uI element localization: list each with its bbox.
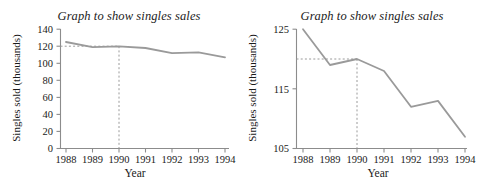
y-tick-label: 20 (43, 126, 54, 137)
y-tick-label: 40 (43, 109, 54, 120)
y-tick-label: 140 (37, 24, 53, 35)
y-tick-label: 115 (274, 84, 289, 95)
x-tick-label: 1990 (347, 154, 368, 165)
y-tick-label: 60 (43, 92, 54, 103)
y-tick-label: 0 (48, 143, 53, 154)
x-tick-label: 1991 (374, 154, 395, 165)
x-tick-marks-left (66, 149, 225, 153)
y-tick-label: 125 (273, 24, 289, 35)
plot-area-left: 0 20 40 60 80 100 120 140 198 (0, 0, 240, 187)
y-tick-marks-right (293, 29, 297, 148)
x-tick-label: 1989 (320, 154, 341, 165)
data-series-line-right (303, 29, 465, 137)
figure-pair: Graph to show singles sales Singles sold… (0, 0, 480, 187)
plot-area-right: 105 115 125 1988 1989 1990 1991 1992 (240, 0, 480, 187)
x-tick-label: 1992 (162, 154, 183, 165)
y-tick-label: 80 (43, 75, 54, 86)
data-series-line-left (66, 42, 225, 57)
y-tick-label: 105 (273, 143, 289, 154)
y-tick-label: 100 (37, 58, 53, 69)
x-tick-label: 1994 (455, 154, 477, 165)
x-tick-label: 1993 (188, 154, 209, 165)
x-tick-label: 1993 (428, 154, 449, 165)
y-tick-labels-right: 105 115 125 (273, 24, 289, 154)
axis-lines-left (61, 29, 230, 149)
x-tick-labels-left: 1988 1989 1990 1991 1992 1993 1994 (56, 154, 237, 165)
x-axis-label-left: Year (0, 167, 240, 179)
x-axis-label-right: Year (240, 167, 480, 179)
x-tick-label: 1992 (401, 154, 422, 165)
x-tick-label: 1988 (56, 154, 77, 165)
x-tick-label: 1994 (215, 154, 237, 165)
x-tick-label: 1990 (109, 154, 130, 165)
chart-right: Graph to show singles sales Singles sold… (240, 0, 480, 187)
chart-left: Graph to show singles sales Singles sold… (0, 0, 240, 187)
x-tick-marks-right (303, 149, 465, 153)
x-tick-label: 1988 (293, 154, 314, 165)
y-tick-labels-left: 0 20 40 60 80 100 120 140 (37, 24, 53, 154)
x-tick-label: 1989 (82, 154, 103, 165)
axis-lines-right (297, 29, 468, 149)
y-tick-label: 120 (37, 41, 53, 52)
x-tick-labels-right: 1988 1989 1990 1991 1992 1993 1994 (293, 154, 477, 165)
y-tick-marks-left (57, 29, 61, 148)
x-tick-label: 1991 (135, 154, 156, 165)
